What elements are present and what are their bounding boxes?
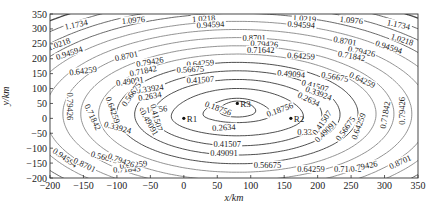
y-axis-label: y/km bbox=[0, 87, 11, 107]
y-tick-label: −100 bbox=[26, 143, 47, 154]
contour-label: 0.79426 bbox=[65, 93, 75, 121]
contour-label: 0.79426 bbox=[349, 158, 378, 174]
contour-label: 1.1734 bbox=[386, 17, 412, 32]
receiver-label: R2 bbox=[294, 114, 305, 124]
contour-label: 0.94594 bbox=[196, 19, 225, 30]
x-tick-label: −100 bbox=[107, 180, 128, 191]
x-tick-label: 100 bbox=[243, 180, 258, 191]
x-tick-label: 0 bbox=[181, 180, 186, 191]
x-tick-label: 50 bbox=[212, 180, 222, 191]
y-axis: −200−150−100−50050100150200250300350 bbox=[26, 9, 53, 184]
receiver-marker bbox=[236, 102, 239, 105]
y-tick-label: −50 bbox=[31, 128, 47, 139]
y-tick-label: 100 bbox=[32, 83, 47, 94]
x-tick-label: 250 bbox=[344, 180, 359, 191]
contour-label: 0.8701 bbox=[387, 152, 412, 171]
contour-label: 0.71642 bbox=[247, 45, 275, 55]
receiver-label: R1 bbox=[187, 114, 198, 124]
x-tick-label: 150 bbox=[277, 180, 292, 191]
contour-label: 0.18756 bbox=[265, 100, 294, 119]
x-axis: −200−150−100−50050100150200250300350 bbox=[40, 175, 426, 191]
contour-label: 0.64259 bbox=[287, 50, 315, 61]
contour-label: 0.64259 bbox=[297, 164, 325, 174]
contour-label: 0.64259 bbox=[69, 64, 98, 78]
contour-label: 0.56675 bbox=[176, 63, 204, 74]
x-tick-label: 350 bbox=[411, 180, 426, 191]
contour-chart: 1.17341.09761.02180.945941.02180.945940.… bbox=[0, 0, 441, 210]
y-tick-label: 150 bbox=[32, 68, 47, 79]
contour-label: 0.56675 bbox=[320, 69, 349, 84]
x-axis-label: x/km bbox=[224, 192, 244, 203]
contour-label: 1.1734 bbox=[64, 17, 90, 32]
receiver-marker bbox=[289, 117, 292, 120]
y-tick-label: 250 bbox=[32, 38, 47, 49]
contour-label: 0.41507 bbox=[186, 74, 214, 85]
contour-label: 0.71842 bbox=[378, 100, 393, 129]
y-tick-label: 300 bbox=[32, 23, 47, 34]
receiver-marker bbox=[182, 117, 185, 120]
contour-label: 0.94594 bbox=[287, 18, 316, 30]
x-tick-label: −50 bbox=[143, 180, 159, 191]
y-tick-label: 350 bbox=[32, 9, 47, 20]
y-tick-label: 200 bbox=[32, 53, 47, 64]
contour-labels: 1.17341.09761.02180.945941.02180.945940.… bbox=[46, 13, 416, 175]
x-tick-label: 300 bbox=[377, 180, 392, 191]
y-tick-label: −200 bbox=[26, 173, 47, 184]
contour-label: 0.56675 bbox=[254, 160, 282, 170]
contour-label: 1.0976 bbox=[121, 14, 145, 26]
contour-label: 0.49091 bbox=[210, 148, 238, 158]
x-tick-label: −150 bbox=[73, 180, 94, 191]
contour-label: 0.79426 bbox=[397, 97, 407, 125]
contour-label: 0.64259 bbox=[348, 69, 377, 90]
y-tick-label: −150 bbox=[26, 158, 47, 169]
y-tick-label: 0 bbox=[42, 113, 47, 124]
contour-label: 0.49094 bbox=[277, 67, 306, 79]
contour-label: 0.2634 bbox=[212, 122, 237, 133]
receiver-label: R3 bbox=[240, 99, 251, 109]
x-tick-label: 200 bbox=[310, 180, 325, 191]
y-tick-label: 50 bbox=[37, 98, 47, 109]
